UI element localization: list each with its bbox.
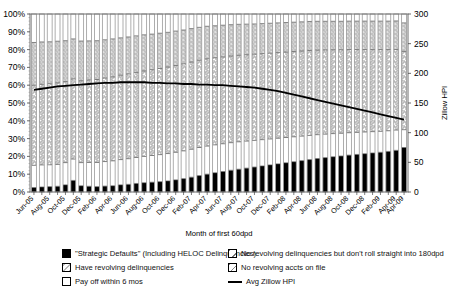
bar-segment — [110, 186, 115, 192]
bar-segment — [260, 24, 265, 54]
bar-segment — [221, 57, 226, 144]
bar-segment — [134, 72, 139, 157]
bar-segment — [32, 188, 37, 192]
bar-segment — [252, 14, 257, 24]
bar-segment — [95, 80, 100, 163]
bar-segment — [331, 157, 336, 192]
bar-segment — [39, 14, 44, 42]
bar-segment — [228, 143, 233, 171]
bar-segment — [213, 145, 218, 173]
bar-segment — [142, 71, 147, 156]
x-axis: Jun-05Aug-05Oct-05Dec-05Feb-06Apr-06Jun-… — [13, 192, 405, 217]
bar-segment — [347, 50, 352, 133]
bar-segment — [102, 40, 107, 78]
bar-segment — [87, 41, 92, 80]
stacked-bar-chart: 0%10%20%30%40%50%60%70%80%90%100% 050100… — [0, 0, 456, 248]
bar-segment — [236, 14, 241, 24]
bar-segment — [32, 85, 37, 165]
bar-segment — [268, 14, 273, 23]
chart-legend: "Strategic Defaults" (Including HELOC De… — [0, 247, 456, 295]
bar-segment — [87, 14, 92, 41]
bar-segment — [95, 41, 100, 80]
bar-segment — [189, 62, 194, 149]
bar-segment — [284, 14, 289, 23]
bar-segment — [39, 84, 44, 165]
bar-segment — [228, 56, 233, 143]
bar-segment — [307, 50, 312, 135]
bar-segment — [244, 141, 249, 168]
bar-segment — [39, 187, 44, 192]
bar-segment — [362, 154, 367, 192]
bar-segment — [118, 185, 123, 192]
bar-segment — [142, 35, 147, 71]
bar-segment — [126, 184, 131, 192]
bar-segment — [63, 14, 68, 41]
bar-segment — [71, 79, 76, 159]
bar-segment — [339, 133, 344, 156]
bar-segment — [378, 21, 383, 49]
bar-segment — [213, 173, 218, 192]
bar-segment — [47, 187, 52, 192]
bar-segment — [142, 156, 147, 182]
y-axis-right-tick-label: 300 — [414, 9, 428, 19]
bar-segment — [370, 21, 375, 49]
bar-segment — [79, 186, 84, 192]
bar-segment — [110, 14, 115, 39]
bar-segment — [394, 130, 399, 150]
legend-label: Pay off within 6 mos — [75, 277, 143, 286]
y-axis-left: 0%10%20%30%40%50%60%70%80%90%100% — [3, 9, 30, 197]
bar-segment — [181, 30, 186, 64]
bar-segment — [102, 14, 107, 40]
bar-segment — [354, 50, 359, 133]
bar-segment — [370, 132, 375, 153]
legend-item-pay-off-within-6-mos: Pay off within 6 mos — [62, 277, 143, 286]
bar-segment — [213, 14, 218, 26]
bar-segment — [39, 165, 44, 187]
plot-area: 0%10%20%30%40%50%60%70%80%90%100% 050100… — [0, 0, 456, 248]
legend-swatch-white-icon — [62, 277, 71, 286]
bar-segment — [276, 164, 281, 192]
y-axis-right: 050100150200250300 — [408, 9, 428, 197]
bar-segment — [197, 176, 202, 192]
bar-segment — [228, 14, 233, 25]
bar-segment — [55, 14, 60, 41]
bar-segment — [32, 14, 37, 42]
bar-segment — [110, 39, 115, 77]
bar-segment — [221, 14, 226, 25]
y-axis-left-tick-label: 0% — [13, 187, 26, 197]
bar-segment — [173, 14, 178, 31]
legend-item-no-revolving-accts: No revolving accts on file — [228, 263, 325, 272]
bar-segment — [236, 169, 241, 192]
bar-segment — [134, 183, 139, 192]
bar-segment — [165, 14, 170, 32]
y-axis-left-tick-label: 50% — [8, 98, 25, 108]
bar-segment — [370, 50, 375, 132]
bar-segment — [323, 50, 328, 134]
bar-segment — [347, 155, 352, 192]
bar-segment — [95, 14, 100, 41]
bar-segment — [47, 42, 52, 84]
legend-swatch-solid-black-icon — [62, 249, 71, 258]
bar-segment — [63, 41, 68, 82]
x-axis-title: Month of first 60dpd — [185, 229, 252, 238]
bar-segment — [228, 25, 233, 56]
bar-segment — [394, 21, 399, 49]
legend-label: Avg Zillow HPI — [246, 277, 295, 286]
bar-segment — [110, 77, 115, 161]
bar-segment — [228, 170, 233, 192]
legend-swatch-diag-hatch-icon — [62, 263, 71, 272]
bar-segment — [323, 21, 328, 50]
y-axis-left-tick-label: 100% — [3, 9, 25, 19]
y-axis-right-tick-label: 200 — [414, 68, 428, 78]
bar-segment — [378, 131, 383, 152]
bar-segment — [213, 58, 218, 145]
bar-segment — [252, 54, 257, 140]
bar-segment — [284, 163, 289, 192]
y-axis-left-tick-label: 40% — [8, 116, 25, 126]
bar-segment — [213, 26, 218, 58]
legend-label: Have revolving delinquencies — [75, 263, 174, 272]
bar-segment — [291, 137, 296, 162]
bar-segment — [276, 138, 281, 164]
bar-segment — [268, 53, 273, 139]
bar-segment — [126, 37, 131, 74]
